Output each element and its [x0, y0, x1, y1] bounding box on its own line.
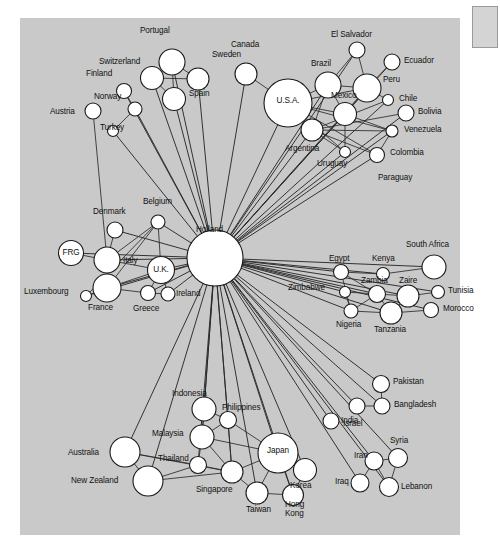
- node-label-usa: U.S.A.: [38, 96, 500, 105]
- node-label-israel: Israel: [343, 419, 362, 428]
- node-label-el_salvador: El Salvador: [331, 30, 372, 39]
- node-label-uruguay: Uruguay: [317, 159, 347, 168]
- node-label-austria: Austria: [50, 107, 75, 116]
- node-label-holland: Holland: [196, 225, 223, 234]
- node-label-uk: U.K.: [0, 265, 411, 274]
- node-label-pakistan: Pakistan: [393, 377, 424, 386]
- node-label-iraq: Iraq: [335, 477, 349, 486]
- node-label-tanzania: Tanzania: [374, 325, 406, 334]
- node-label-nigeria: Nigeria: [336, 320, 361, 329]
- node-label-italy: Italy: [123, 256, 138, 265]
- node-label-thailand: Thailand: [158, 454, 189, 463]
- node-label-peru: Peru: [383, 75, 400, 84]
- node-label-argentina: Argentina: [285, 144, 319, 153]
- node-label-singapore: Singapore: [196, 485, 232, 494]
- node-label-denmark: Denmark: [93, 207, 126, 216]
- node-label-venezuela: Venezuela: [404, 125, 441, 134]
- node-label-egypt: Egypt: [329, 254, 349, 263]
- node-label-colombia: Colombia: [390, 148, 424, 157]
- node-label-indonesia: Indonesia: [172, 389, 207, 398]
- page-edge-box: [472, 6, 498, 48]
- node-label-turkey: Turkey: [100, 123, 124, 132]
- node-label-korea: Korea: [290, 481, 311, 490]
- node-label-lebanon: Lebanon: [401, 482, 432, 491]
- node-label-zaire: Zaire: [399, 276, 417, 285]
- node-label-finland: Finland: [86, 69, 112, 78]
- node-label-zimbabwe: Zimbabwe: [288, 283, 325, 292]
- node-label-kenya: Kenya: [372, 254, 395, 263]
- node-label-canada: Canada: [231, 40, 259, 49]
- node-label-new_zealand: New Zealand: [71, 476, 118, 485]
- node-label-zambia: Zambia: [361, 276, 388, 285]
- node-label-portugal: Portugal: [140, 26, 170, 35]
- node-label-malaysia: Malaysia: [152, 429, 184, 438]
- node-label-south_africa: South Africa: [406, 240, 449, 249]
- node-label-belgium: Belgium: [143, 197, 172, 206]
- node-label-iran: Iran: [354, 451, 368, 460]
- node-label-bolivia: Bolivia: [418, 107, 441, 116]
- node-label-ireland: Ireland: [176, 289, 200, 298]
- node-label-frg: FRG: [0, 248, 321, 257]
- node-label-taiwan: Taiwan: [246, 505, 271, 514]
- node-label-brazil: Brazil: [311, 59, 331, 68]
- node-label-paraguay: Paraguay: [378, 173, 412, 182]
- node-label-france: France: [88, 303, 113, 312]
- node-label-mexico: Mexico: [331, 91, 356, 100]
- node-label-sweden: Sweden: [212, 50, 241, 59]
- node-label-tunisia: Tunisia: [448, 286, 473, 295]
- figure-root: PortugalSwedenSwitzerlandSpainFinlandNor…: [0, 0, 500, 550]
- node-label-chile: Chile: [399, 94, 417, 103]
- node-label-philippines: Philippines: [222, 403, 261, 412]
- node-label-morocco: Morocco: [443, 304, 474, 313]
- node-label-bangladesh: Bangladesh: [394, 400, 436, 409]
- node-label-syria: Syria: [390, 436, 408, 445]
- node-label-switzerland: Switzerland: [99, 57, 140, 66]
- node-label-australia: Australia: [68, 448, 99, 457]
- node-label-hong_kong: Hong Kong: [285, 500, 304, 519]
- node-label-ecuador: Ecuador: [404, 56, 434, 65]
- node-label-greece: Greece: [133, 304, 159, 313]
- node-label-luxembourg: Luxembourg: [24, 287, 69, 296]
